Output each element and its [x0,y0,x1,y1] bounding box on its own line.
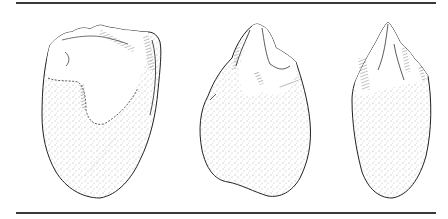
bottom-rule [16,212,436,214]
artifact-left [42,25,161,198]
artifact-middle [200,24,311,196]
stone-tools-illustration [0,0,448,219]
artifact-right [352,22,431,198]
